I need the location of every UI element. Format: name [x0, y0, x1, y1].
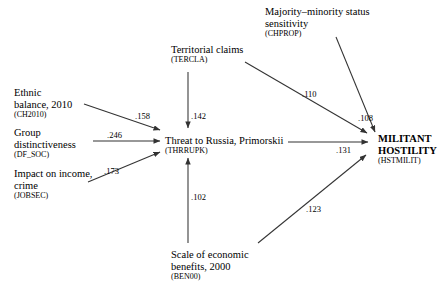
coef-tercla-hstmilit: .110 — [302, 89, 317, 99]
node-ch2010-title-line2: balance, 2010 — [14, 99, 72, 111]
coef-ch2010-thrrupk: .158 — [135, 111, 150, 121]
path-diagram: Ethnic balance, 2010 (CH2010) Group dist… — [0, 0, 441, 291]
node-thrrupk: Threat to Russia, Primorskii (THRRUPK) — [165, 135, 283, 156]
node-hstmilit-title-line2: HOSTILITY — [378, 145, 437, 157]
node-jobsec-title-line2: crime — [14, 180, 92, 192]
node-ben00-title-line1: Scale of economic — [171, 249, 249, 261]
coef-dfsoc-thrrupk: .246 — [107, 130, 122, 140]
node-chprop-title-line2: sensitivity — [265, 18, 370, 30]
node-hstmilit-title-line1: MILITANT — [378, 133, 437, 145]
node-ch2010: Ethnic balance, 2010 (CH2010) — [14, 87, 72, 119]
coef-ben00-thrrupk: .102 — [191, 192, 206, 202]
edge-jobsec-thrrupk — [88, 152, 160, 182]
node-ch2010-title-line1: Ethnic — [14, 87, 72, 99]
coef-chprop-hstmilit: .108 — [358, 113, 373, 123]
node-jobsec-code: (JOBSEC) — [14, 192, 92, 201]
node-thrrupk-code: (THRRUPK) — [165, 147, 283, 156]
node-dfsoc-title-line2: distinctiveness — [14, 139, 76, 151]
node-ch2010-code: (CH2010) — [14, 111, 72, 120]
coef-tercla-thrrupk: .142 — [191, 111, 206, 121]
node-dfsoc: Group distinctiveness (DF_SOC) — [14, 127, 76, 159]
node-chprop-title-line1: Majority–minority status — [265, 6, 370, 18]
node-jobsec: Impact on income, crime (JOBSEC) — [14, 168, 92, 200]
node-hstmilit: MILITANT HOSTILITY (HSTMILIT) — [378, 133, 437, 165]
node-ben00-code: (BEN00) — [171, 273, 249, 282]
node-tercla-code: (TERCLA) — [171, 56, 243, 65]
node-tercla-title-line1: Territorial claims — [171, 44, 243, 56]
coef-jobsec-thrrupk: .173 — [104, 166, 119, 176]
node-jobsec-title-line1: Impact on income, — [14, 168, 92, 180]
node-thrrupk-title-line1: Threat to Russia, Primorskii — [165, 135, 283, 147]
node-tercla: Territorial claims (TERCLA) — [171, 44, 243, 65]
node-hstmilit-code: (HSTMILIT) — [378, 157, 437, 166]
coef-ben00-hstmilit: .123 — [306, 204, 321, 214]
coef-thrrupk-hstmilit: .131 — [336, 145, 351, 155]
node-chprop: Majority–minority status sensitivity (CH… — [265, 6, 370, 38]
edge-ben00-hstmilit — [258, 155, 366, 243]
node-dfsoc-title-line1: Group — [14, 127, 76, 139]
node-ben00-title-line2: benefits, 2000 — [171, 261, 249, 273]
node-chprop-code: (CHPROP) — [265, 30, 370, 39]
node-dfsoc-code: (DF_SOC) — [14, 151, 76, 160]
node-ben00: Scale of economic benefits, 2000 (BEN00) — [171, 249, 249, 281]
